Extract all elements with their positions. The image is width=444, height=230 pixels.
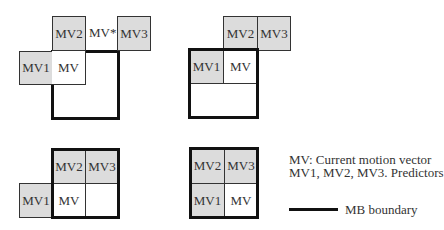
cell-label: MV bbox=[58, 60, 79, 76]
mb-boundary bbox=[189, 147, 259, 219]
mb-boundary bbox=[51, 148, 120, 219]
predictor-mv1: MV1 bbox=[19, 51, 53, 85]
mb-boundary-line-icon bbox=[289, 208, 338, 211]
cell-label: MV3 bbox=[260, 26, 287, 42]
cell-label: MV1 bbox=[22, 60, 49, 76]
cell-label: MV2 bbox=[227, 26, 254, 42]
mv-star-label: MV* bbox=[89, 25, 116, 41]
cell-label: MV1 bbox=[22, 193, 49, 209]
legend-predictors: MV1, MV2, MV3. Predictors bbox=[289, 166, 444, 179]
mb-boundary bbox=[188, 48, 259, 119]
predictor-mv2: MV2 bbox=[223, 16, 258, 51]
predictor-mv3: MV3 bbox=[257, 16, 291, 51]
predictor-mv2: MV2 bbox=[52, 16, 86, 51]
predictor-mv1: MV1 bbox=[19, 183, 53, 218]
current-mv: MV bbox=[52, 51, 86, 85]
legend-mb-boundary: MB boundary bbox=[345, 203, 418, 216]
cell-label: MV2 bbox=[55, 26, 82, 42]
predictor-mv3: MV3 bbox=[117, 16, 151, 51]
cell-label: MV3 bbox=[120, 26, 147, 42]
